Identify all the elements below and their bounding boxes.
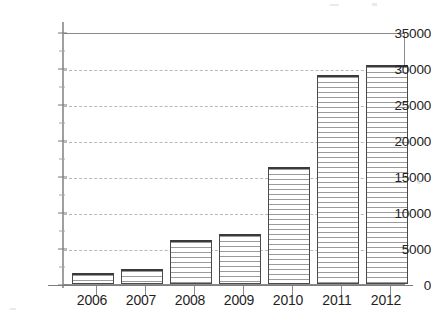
- x-axis-label-2009: 2009: [224, 292, 254, 308]
- bar-chart: 35000 30000 25000 20000 15000 10000 5000…: [0, 0, 431, 315]
- y-minor-tick-3: [59, 123, 65, 124]
- y-minor-tick-6: [59, 231, 65, 232]
- y-minor-tick-5: [59, 195, 65, 196]
- bar-2008: [170, 240, 212, 284]
- bar-2007: [121, 269, 163, 284]
- y-axis-label-20000: 20000: [374, 134, 431, 149]
- y-minor-tick-1: [59, 51, 65, 52]
- x-axis-label-2008: 2008: [175, 292, 205, 308]
- y-tick-mark-15000: [58, 177, 67, 178]
- bar-2011: [317, 75, 359, 284]
- gridline-30000: [64, 70, 404, 71]
- bar-2010: [268, 167, 310, 284]
- scan-artifact-1: [330, 4, 339, 6]
- x-axis-label-2012: 2012: [371, 292, 401, 308]
- x-axis-line: [48, 285, 413, 286]
- x-axis-label-2007: 2007: [126, 292, 156, 308]
- x-axis-label-2011: 2011: [322, 292, 351, 308]
- y-axis-label-15000: 15000: [374, 170, 431, 185]
- y-axis-label-30000: 30000: [374, 62, 431, 77]
- bar-2006: [72, 273, 114, 284]
- y-tick-mark-20000: [58, 141, 67, 142]
- y-axis-label-10000: 10000: [374, 206, 431, 221]
- y-minor-tick-4: [59, 159, 65, 160]
- y-minor-tick-7: [59, 267, 65, 268]
- y-minor-tick-2: [59, 87, 65, 88]
- scan-artifact-2: [372, 3, 377, 6]
- x-axis-label-2010: 2010: [273, 292, 303, 308]
- y-tick-mark-30000: [58, 69, 67, 70]
- y-axis-label-25000: 25000: [374, 98, 431, 113]
- y-tick-mark-10000: [58, 213, 67, 214]
- y-tick-mark-35000: [58, 33, 67, 34]
- y-axis-label-5000: 5000: [374, 242, 431, 257]
- x-axis-label-2006: 2006: [77, 292, 107, 308]
- scan-artifact-4: [10, 308, 16, 310]
- y-axis-label-35000: 35000: [374, 26, 431, 41]
- y-tick-mark-25000: [58, 105, 67, 106]
- bar-2009: [219, 234, 261, 284]
- plot-area: [63, 33, 405, 285]
- y-tick-mark-5000: [58, 249, 67, 250]
